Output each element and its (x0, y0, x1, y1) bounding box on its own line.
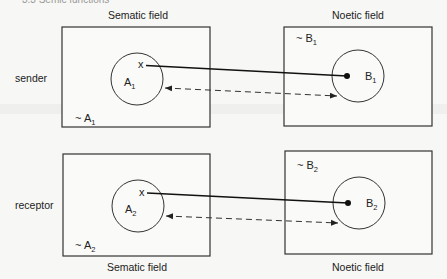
receptor-point-x: x (139, 186, 145, 198)
header-partial-text: 3.3 Semic functions (22, 0, 109, 5)
receptor-b2-point-dot (345, 200, 351, 206)
sender-b1-point-dot (344, 73, 350, 79)
sender-point-x: x (138, 58, 144, 70)
receptor-label: receptor (15, 199, 54, 211)
noetic-field-title-bottom: Noetic field (332, 261, 384, 273)
semic-field-diagram: 3.3 Semic functions Sematic field Noetic… (0, 0, 447, 279)
semantic-field-title-bottom: Sematic field (107, 261, 167, 273)
sender-label: sender (15, 72, 48, 84)
noetic-field-title-top: Noetic field (332, 9, 384, 21)
semantic-field-title-top: Sematic field (108, 9, 168, 21)
